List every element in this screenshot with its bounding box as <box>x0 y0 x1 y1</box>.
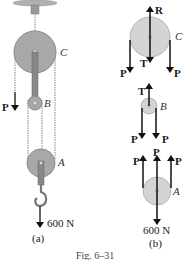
label-p-right-b: P <box>162 133 169 145</box>
label-p-right-a: P <box>175 155 182 167</box>
fbd-pulley-c: R T P P C <box>120 4 183 79</box>
hook-icon <box>35 185 46 206</box>
force-p-arrow: P <box>2 92 15 113</box>
label-panel-a: (a) <box>32 232 45 245</box>
fbd-pulley-a: P P P 600 N A <box>133 146 182 236</box>
panel-b: R T P P C T P P B P P <box>120 4 183 250</box>
pulley-a: A <box>27 149 65 185</box>
panel-a: C B P A 600 N (a) <box>2 0 74 245</box>
ceiling-support <box>13 0 57 32</box>
label-fbd-a: A <box>172 185 180 197</box>
link-bar <box>32 52 38 98</box>
label-load-a: 600 N <box>47 217 74 229</box>
fbd-pulley-b: T P P B <box>131 85 169 145</box>
label-p-left-a: P <box>133 155 140 167</box>
load-arrow: 600 N <box>40 206 74 229</box>
label-p-right-c: P <box>174 67 181 79</box>
label-r: R <box>155 4 164 16</box>
label-pulley-b: B <box>44 97 51 109</box>
label-fbd-b: B <box>160 100 167 112</box>
label-t-b: T <box>138 85 146 97</box>
pulley-c: C <box>14 31 68 73</box>
label-force-p: P <box>2 101 9 113</box>
figure-caption: Fig. 6–31 <box>76 250 114 260</box>
pulley-diagram: C B P A 600 N (a) <box>0 0 183 260</box>
label-panel-b: (b) <box>149 237 162 250</box>
label-p-left-b: P <box>131 133 138 145</box>
label-t-c: T <box>140 57 148 69</box>
label-fbd-c: C <box>175 30 183 42</box>
pulley-b: B <box>28 96 51 110</box>
label-load-b: 600 N <box>143 224 170 236</box>
label-pulley-c: C <box>60 46 68 58</box>
label-p-center-a: P <box>153 146 160 158</box>
label-p-left-c: P <box>120 67 127 79</box>
label-pulley-a: A <box>57 156 65 168</box>
